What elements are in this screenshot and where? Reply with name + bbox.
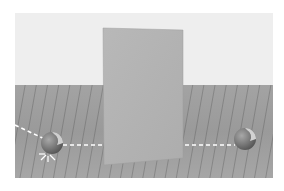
scene-objects xyxy=(15,13,273,178)
gray-panel xyxy=(103,28,183,165)
impact-burst-icon xyxy=(39,154,55,162)
left-ball-icon xyxy=(41,132,63,154)
right-ball-icon xyxy=(234,128,256,150)
scene-frame xyxy=(15,13,273,178)
